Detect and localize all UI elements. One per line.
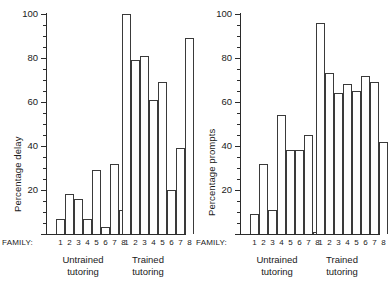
group-label-trained-right: Trained tutoring bbox=[297, 254, 387, 278]
y-tick-minor bbox=[43, 135, 46, 136]
bar bbox=[185, 38, 194, 234]
y-tick-label: 40 bbox=[208, 140, 232, 151]
y-tick-minor bbox=[237, 168, 240, 169]
y-tick-minor bbox=[43, 25, 46, 26]
y-tick-minor bbox=[43, 212, 46, 213]
bar bbox=[122, 14, 131, 234]
y-tick-major bbox=[41, 146, 46, 147]
bar bbox=[325, 73, 334, 234]
bar bbox=[259, 164, 268, 234]
y-tick-minor bbox=[237, 25, 240, 26]
group-label-trained-line1-right: Trained bbox=[326, 254, 358, 265]
y-tick-minor bbox=[43, 179, 46, 180]
y-tick-minor bbox=[237, 36, 240, 37]
bar bbox=[110, 164, 119, 234]
y-tick-minor bbox=[43, 157, 46, 158]
y-tick-label: 60 bbox=[14, 96, 38, 107]
bar bbox=[277, 115, 286, 234]
group-label-trained-line1-left: Trained bbox=[132, 254, 164, 265]
y-tick-major bbox=[41, 234, 46, 235]
y-tick-label: 20 bbox=[14, 184, 38, 195]
bar bbox=[74, 199, 83, 234]
y-tick-label: 80 bbox=[14, 52, 38, 63]
group-label-untrained-line2-left: tutoring bbox=[67, 266, 99, 277]
bar bbox=[65, 194, 74, 234]
bar bbox=[149, 100, 158, 234]
family-axis-label-right: FAMILY: bbox=[196, 238, 227, 247]
group-label-untrained-line1-left: Untrained bbox=[62, 254, 103, 265]
y-tick-minor bbox=[237, 113, 240, 114]
bar bbox=[343, 84, 352, 234]
y-tick-minor bbox=[43, 36, 46, 37]
x-axis-baseline-right bbox=[240, 234, 380, 235]
y-tick-major bbox=[41, 14, 46, 15]
bar bbox=[158, 82, 167, 234]
y-tick-major bbox=[235, 14, 240, 15]
y-tick-minor bbox=[43, 47, 46, 48]
y-tick-major bbox=[41, 102, 46, 103]
bar bbox=[361, 76, 370, 234]
figure-container: Percentage delay 10080604020 FAMILY: 123… bbox=[0, 0, 388, 296]
y-tick-minor bbox=[43, 201, 46, 202]
y-tick-major bbox=[235, 146, 240, 147]
bar bbox=[101, 227, 110, 234]
y-tick-major bbox=[235, 58, 240, 59]
y-tick-minor bbox=[237, 201, 240, 202]
bar bbox=[92, 170, 101, 234]
y-tick-minor bbox=[237, 212, 240, 213]
y-tick-minor bbox=[237, 69, 240, 70]
y-axis-line-right bbox=[240, 13, 241, 235]
y-tick-minor bbox=[237, 124, 240, 125]
y-tick-label: 100 bbox=[208, 8, 232, 19]
chart-percentage-prompts: Percentage prompts 10080604020 FAMILY: 1… bbox=[194, 0, 388, 296]
bar bbox=[316, 23, 325, 234]
group-label-untrained-line1-right: Untrained bbox=[256, 254, 297, 265]
bar bbox=[56, 219, 65, 234]
group-label-untrained-line2-right: tutoring bbox=[261, 266, 293, 277]
group-label-trained-line2-left: tutoring bbox=[132, 266, 164, 277]
bar bbox=[286, 150, 295, 234]
y-tick-minor bbox=[43, 168, 46, 169]
y-tick-minor bbox=[237, 80, 240, 81]
y-tick-label: 20 bbox=[208, 184, 232, 195]
y-axis-line-left bbox=[46, 13, 47, 235]
bar bbox=[268, 210, 277, 234]
y-tick-major bbox=[41, 190, 46, 191]
y-tick-major bbox=[235, 102, 240, 103]
bar bbox=[250, 214, 259, 234]
bar bbox=[334, 93, 343, 234]
bar bbox=[295, 150, 304, 234]
y-tick-minor bbox=[43, 124, 46, 125]
bar bbox=[352, 91, 361, 234]
family-axis-label-left: FAMILY: bbox=[2, 238, 33, 247]
y-tick-minor bbox=[43, 223, 46, 224]
family-number: 8 bbox=[185, 238, 195, 247]
y-tick-minor bbox=[237, 179, 240, 180]
y-tick-major bbox=[235, 234, 240, 235]
y-tick-major bbox=[41, 58, 46, 59]
group-label-trained-left: Trained tutoring bbox=[103, 254, 193, 278]
y-tick-minor bbox=[237, 157, 240, 158]
bar bbox=[304, 135, 313, 234]
x-axis-baseline-left bbox=[46, 234, 186, 235]
y-tick-label: 60 bbox=[208, 96, 232, 107]
bar bbox=[167, 190, 176, 234]
bar bbox=[176, 148, 185, 234]
y-tick-minor bbox=[237, 135, 240, 136]
y-tick-label: 80 bbox=[208, 52, 232, 63]
y-tick-minor bbox=[43, 113, 46, 114]
bar bbox=[83, 219, 92, 234]
y-tick-label: 40 bbox=[14, 140, 38, 151]
bar bbox=[370, 82, 379, 234]
family-number: 8 bbox=[379, 238, 388, 247]
y-tick-minor bbox=[237, 91, 240, 92]
y-tick-minor bbox=[43, 80, 46, 81]
y-tick-major bbox=[235, 190, 240, 191]
y-tick-minor bbox=[237, 223, 240, 224]
y-tick-minor bbox=[43, 91, 46, 92]
y-tick-label: 100 bbox=[14, 8, 38, 19]
bar bbox=[131, 60, 140, 234]
y-tick-minor bbox=[237, 47, 240, 48]
y-tick-minor bbox=[43, 69, 46, 70]
bar bbox=[140, 56, 149, 234]
